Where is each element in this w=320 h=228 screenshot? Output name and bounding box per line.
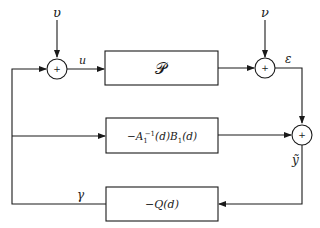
signal-nu-label: ν: [261, 5, 269, 20]
epsilon-arrow: [275, 68, 302, 123]
feedforward-block: −A1−1(d)B1(d): [106, 118, 218, 153]
y-tilde-arrow: [219, 145, 302, 204]
summing-junction-1: +: [47, 59, 67, 79]
controller-block: −Q(d): [106, 187, 218, 221]
plus-sign: +: [261, 63, 269, 73]
signal-y-tilde-label: ỹ: [291, 153, 299, 167]
signal-u-label: u: [79, 54, 86, 67]
block-diagram: υ + u 𝒫 ν + ε + −A1−1(d)B1(d) ỹ −Q(d): [0, 0, 320, 228]
summing-junction-2: +: [255, 58, 275, 78]
signal-v-label: υ: [53, 5, 61, 20]
plus-sign: +: [298, 130, 306, 140]
plus-sign: +: [53, 64, 61, 74]
signal-gamma-label: γ: [77, 188, 85, 202]
signal-epsilon-label: ε: [285, 52, 291, 66]
plant-label: 𝒫: [155, 59, 169, 78]
plant-block: 𝒫: [105, 51, 218, 85]
summing-junction-3: +: [292, 125, 312, 145]
controller-label: −Q(d): [145, 198, 179, 211]
